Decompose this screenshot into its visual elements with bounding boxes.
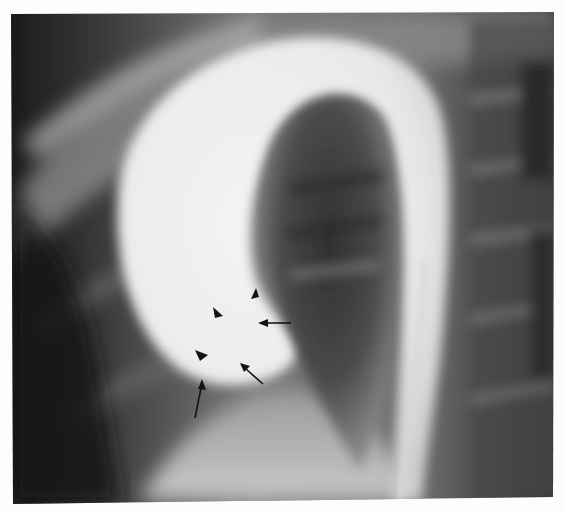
figure-frame	[0, 0, 564, 514]
xray-image	[0, 0, 564, 514]
film-region	[0, 0, 564, 514]
